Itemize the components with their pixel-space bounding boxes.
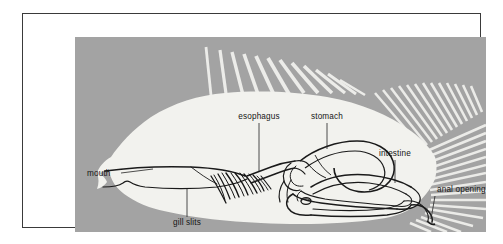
figure-frame: mouth gill slits esophagus stomach intes… (22, 13, 481, 228)
fish-anatomy-diagram: mouth gill slits esophagus stomach intes… (75, 37, 486, 232)
label-mouth: mouth (87, 169, 111, 178)
label-intestine: intestine (379, 149, 411, 158)
label-anal-opening: anal opening (437, 185, 486, 194)
label-esophagus: esophagus (238, 112, 279, 121)
screenshot-root: mouth gill slits esophagus stomach intes… (0, 0, 503, 244)
label-stomach: stomach (311, 112, 343, 121)
illustration-panel: mouth gill slits esophagus stomach intes… (75, 37, 486, 232)
label-gill-slits: gill slits (173, 218, 201, 227)
